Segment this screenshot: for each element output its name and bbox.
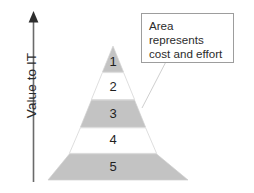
pyramid-bands xyxy=(48,46,188,180)
pyramid-level-3 xyxy=(80,100,145,127)
arrow-up-icon xyxy=(29,11,39,23)
pyramid-level-1 xyxy=(102,46,123,72)
diagram-canvas: Value to IT Area represents cost and eff… xyxy=(0,0,254,193)
callout-line-1: Area xyxy=(149,19,233,33)
callout-box: Area represents cost and effort xyxy=(141,13,234,63)
value-axis xyxy=(29,11,39,182)
callout-line-3: cost and effort xyxy=(149,47,233,61)
pyramid-level-5 xyxy=(48,154,188,180)
callout-line-2: represents xyxy=(149,33,233,47)
pyramid-level-2 xyxy=(91,73,134,100)
pyramid-level-4 xyxy=(69,128,156,154)
